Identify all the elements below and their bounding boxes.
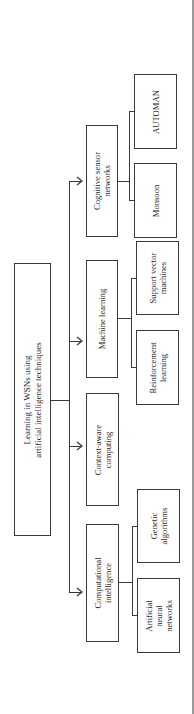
node-artificial-neural-networks: Artificial neural networks bbox=[137, 578, 180, 653]
child-bracket bbox=[132, 526, 133, 616]
node-machine-learning: Machine learning bbox=[86, 260, 118, 378]
node-label: Genetic algorithms bbox=[149, 508, 169, 545]
node-label: Artificial neural networks bbox=[144, 600, 174, 632]
node-label: Support vector machines bbox=[148, 253, 168, 304]
root-node-label: Learning in WSNs using artificial intell… bbox=[22, 342, 44, 457]
node-cognitive-sensor-networks: Cognitive sensor networks bbox=[86, 125, 118, 237]
spine-line bbox=[69, 181, 70, 593]
node-computational-intelligence: Computational intelligence bbox=[86, 524, 119, 642]
node-label: Context-aware computing bbox=[93, 424, 113, 475]
child-bracket bbox=[131, 278, 132, 368]
node-label: Machine learning bbox=[97, 289, 107, 349]
node-label: Cognitive sensor networks bbox=[92, 152, 112, 210]
node-context-aware-computing: Context-aware computing bbox=[86, 393, 119, 506]
diagram-canvas: Learning in WSNs using artificial intell… bbox=[0, 0, 194, 714]
child-bracket bbox=[129, 111, 130, 201]
node-automan: AUTOMAN bbox=[134, 74, 177, 149]
node-genetic-algorithms: Genetic algorithms bbox=[137, 489, 180, 563]
node-label: AUTOMAN bbox=[151, 90, 161, 134]
root-connector bbox=[50, 400, 70, 401]
node-monsoon: Monsoon bbox=[134, 163, 177, 238]
node-label: Reinforcement learning bbox=[148, 342, 168, 393]
node-reinforcement-learning: Reinforcement learning bbox=[136, 330, 179, 405]
root-node: Learning in WSNs using artificial intell… bbox=[14, 263, 51, 536]
page-edge-line bbox=[192, 0, 194, 714]
node-support-vector-machines: Support vector machines bbox=[136, 241, 179, 315]
child-connector bbox=[118, 582, 133, 583]
node-label: Monsoon bbox=[151, 184, 161, 216]
child-connector bbox=[117, 318, 132, 319]
node-label: Computational intelligence bbox=[93, 557, 113, 608]
